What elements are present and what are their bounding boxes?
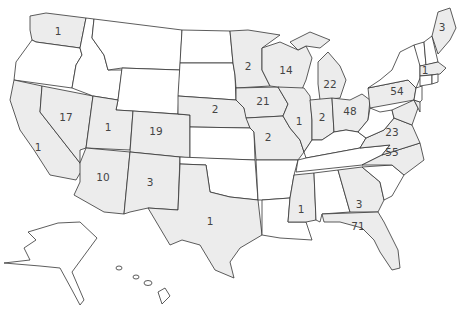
state-value-ne: 2 xyxy=(212,103,219,115)
state-value-in: 2 xyxy=(319,111,326,123)
state-value-wa: 1 xyxy=(55,25,62,37)
state-wy[interactable] xyxy=(116,68,180,114)
state-value-co: 19 xyxy=(149,125,162,137)
state-value-pa: 54 xyxy=(390,85,404,97)
state-value-mn: 2 xyxy=(245,60,252,72)
state-value-tx: 1 xyxy=(207,215,214,227)
state-value-oh: 48 xyxy=(343,105,356,117)
state-mi[interactable] xyxy=(318,52,346,100)
state-ks[interactable] xyxy=(190,127,255,160)
state-value-il: 1 xyxy=(296,115,303,127)
state-value-me: 3 xyxy=(439,21,446,33)
state-value-nv: 17 xyxy=(59,111,72,123)
state-value-ca: 1 xyxy=(35,141,42,153)
state-value-nm: 3 xyxy=(147,176,154,188)
state-value-az: 10 xyxy=(96,171,109,183)
state-ak[interactable] xyxy=(4,222,97,305)
state-value-fl: 71 xyxy=(351,220,364,232)
state-hi[interactable] xyxy=(116,266,170,304)
state-ct[interactable] xyxy=(420,75,432,86)
state-ny[interactable] xyxy=(368,45,420,88)
state-value-ut: 1 xyxy=(105,121,112,133)
state-value-ia: 21 xyxy=(256,95,269,107)
state-nd[interactable] xyxy=(180,30,233,63)
state-value-ga: 3 xyxy=(356,198,363,210)
state-value-ms: 1 xyxy=(298,203,305,215)
state-or[interactable] xyxy=(14,40,82,88)
state-ri[interactable] xyxy=(432,74,438,84)
us-map: 111711910321221214122248137155235413 xyxy=(0,0,465,311)
state-value-ma: 1 xyxy=(422,64,429,76)
state-value-mo: 2 xyxy=(265,131,272,143)
state-sd[interactable] xyxy=(178,63,236,100)
state-value-va: 23 xyxy=(385,126,398,138)
state-mi-upper[interactable] xyxy=(290,32,330,50)
state-value-wi: 14 xyxy=(279,64,293,76)
state-value-nc: 55 xyxy=(385,146,398,158)
state-value-mi: 22 xyxy=(323,78,336,90)
